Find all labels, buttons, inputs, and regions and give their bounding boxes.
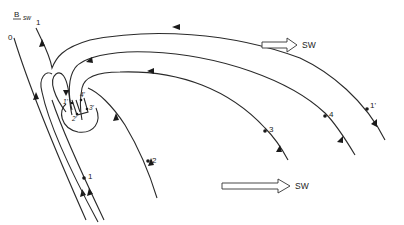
sw-label-top: SW — [302, 40, 316, 50]
point-1prime-inner — [71, 102, 74, 105]
point-2 — [146, 159, 150, 163]
point-1prime-inner-label: 1' — [63, 98, 69, 105]
field-line-outer-top — [36, 28, 385, 140]
arrowhead-icon — [172, 24, 180, 30]
hollow-arrow-icon — [262, 38, 297, 52]
field-label-subscript: sw — [23, 14, 32, 21]
point-4prime-inner-label: 4' — [80, 91, 86, 98]
point-2-label: 2 — [152, 156, 157, 165]
point-1-label: 1 — [88, 172, 93, 181]
field-line-2 — [88, 88, 157, 198]
point-4-label: 4 — [329, 110, 334, 119]
hollow-arrow-icon — [222, 179, 290, 193]
point-1prime — [365, 107, 369, 111]
arrowhead-icon — [337, 136, 343, 143]
solar-wind-arrow-bottom: SW — [222, 179, 309, 193]
point-4 — [323, 114, 327, 118]
sw-label-bottom: SW — [295, 181, 309, 191]
point-4prime-inner — [80, 99, 83, 102]
field-label-b: B — [14, 10, 19, 19]
solar-wind-arrow-top: SW — [262, 38, 316, 52]
field-line-4 — [69, 52, 355, 155]
arrowhead-icon — [39, 39, 45, 47]
line-0-label: 0 — [8, 33, 13, 42]
point-2prime-inner-label: 2' — [71, 115, 78, 122]
arrowhead-icon — [371, 119, 377, 127]
point-1prime-label: 1' — [370, 101, 376, 110]
point-3prime-inner — [86, 108, 89, 111]
point-3prime-inner-label: 3' — [89, 104, 95, 111]
point-3-label: 3 — [269, 125, 274, 134]
point-1 — [82, 176, 86, 180]
inner-segment-b — [76, 100, 80, 112]
field-line-3 — [81, 72, 289, 160]
field-label: B sw — [13, 10, 32, 21]
line-1-top-label: 1 — [36, 18, 41, 27]
point-3 — [263, 129, 267, 133]
arrowhead-icon — [113, 113, 119, 121]
field-line-diagram: B sw 0 1 1 1' 4 3 2 — [0, 0, 404, 225]
field-line-0 — [14, 38, 86, 220]
arrowhead-icon — [63, 90, 69, 96]
